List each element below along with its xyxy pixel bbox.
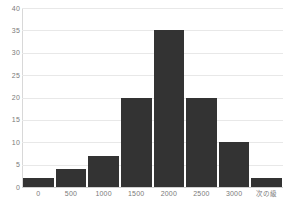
x-axis: 050010001500200025003000次の級 xyxy=(22,190,283,210)
histogram-chart: 0510152025303540 05001000150020002500300… xyxy=(0,0,286,213)
y-axis-tick-label: 5 xyxy=(2,161,20,168)
x-axis-tick-label: 0 xyxy=(36,190,40,198)
bar xyxy=(88,156,119,187)
x-axis-tick-label: 3000 xyxy=(226,190,242,198)
y-axis-tick-label: 25 xyxy=(2,72,20,79)
bar xyxy=(121,98,152,188)
x-axis-tick-label: 500 xyxy=(65,190,77,198)
bar xyxy=(251,178,282,187)
x-axis-tick-label: 2500 xyxy=(193,190,209,198)
y-axis-tick-label: 20 xyxy=(2,94,20,101)
y-axis-tick-label: 0 xyxy=(2,184,20,191)
y-axis-tick-label: 40 xyxy=(2,5,20,12)
gridline xyxy=(22,187,283,188)
plot-area xyxy=(22,8,283,187)
bar-series xyxy=(22,8,283,187)
y-axis-tick-label: 30 xyxy=(2,49,20,56)
x-axis-tick-label: 1500 xyxy=(128,190,144,198)
bar xyxy=(219,142,250,187)
bar xyxy=(186,98,217,188)
y-axis-tick-label: 10 xyxy=(2,139,20,146)
y-axis-tick-label: 35 xyxy=(2,27,20,34)
bar xyxy=(23,178,54,187)
bar xyxy=(154,30,185,187)
bar xyxy=(56,169,87,187)
y-axis: 0510152025303540 xyxy=(0,0,20,213)
x-axis-tick-label: 次の級 xyxy=(256,190,278,198)
y-axis-tick-label: 15 xyxy=(2,116,20,123)
x-axis-tick-label: 2000 xyxy=(161,190,177,198)
x-axis-tick-label: 1000 xyxy=(95,190,111,198)
